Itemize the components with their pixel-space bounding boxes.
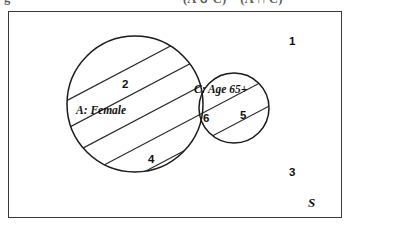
- set-a-label: A: Female: [76, 105, 126, 117]
- shading-hatch-lines: [30, 0, 330, 233]
- universal-set-label: S: [308, 196, 315, 209]
- set-c-label: C: Age 65+: [194, 84, 247, 96]
- region-number-1: 1: [289, 36, 295, 48]
- region-number-3: 3: [289, 167, 295, 179]
- region-number-2: 2: [122, 79, 128, 91]
- region-number-4: 4: [148, 154, 154, 166]
- region-number-6: 6: [203, 113, 209, 125]
- region-number-5: 5: [240, 110, 246, 122]
